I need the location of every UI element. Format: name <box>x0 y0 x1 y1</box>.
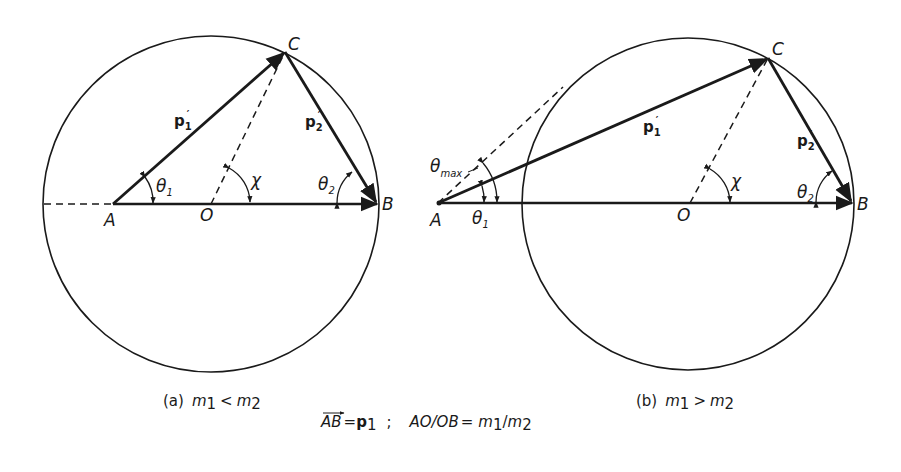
panel-b: A O B C p1′ p2′ θmax θ1 χ θ2 (b)m1>m2 <box>429 38 869 413</box>
theta-max-leader <box>468 168 478 172</box>
panel-a: A O B C p1′ p2′ θ1 χ θ2 (a)m1<m2 <box>43 34 394 413</box>
theta1-label: θ1 <box>156 176 173 198</box>
point-label-b: B <box>857 194 869 214</box>
caption-a: (a)m1<m2 <box>163 392 261 413</box>
point-label-b: B <box>382 194 394 214</box>
point-label-c: C <box>288 34 300 54</box>
point-label-a: A <box>429 210 442 230</box>
vector-p1-prime <box>438 59 767 203</box>
theta1-arc <box>482 186 484 202</box>
point-a-dot <box>437 201 442 206</box>
point-label-o: O <box>677 205 690 225</box>
theta2-label: θ2 <box>318 174 335 196</box>
p1-prime-label: p1′ <box>174 109 192 132</box>
p1-prime-label: p1′ <box>643 115 661 138</box>
chi-arc <box>710 169 730 202</box>
point-label-o: O <box>200 205 213 225</box>
elastic-collision-diagram: A O B C p1′ p2′ θ1 χ θ2 (a)m1<m2 <box>0 0 901 472</box>
dashed-radius-oc <box>211 54 284 204</box>
theta-max-label: θmax <box>430 156 462 179</box>
chi-arc <box>229 168 250 202</box>
footer-equation: AB=p1;AO/OB=m1/m2 <box>320 413 532 434</box>
theta2-label: θ2 <box>797 182 814 204</box>
footer-formula: AB=p1;AO/OB=m1/m2 <box>320 413 532 434</box>
theta1-label: θ1 <box>472 208 489 230</box>
theta1-arc <box>145 177 153 203</box>
caption-b: (b)m1>m2 <box>636 392 734 413</box>
point-label-c: C <box>772 39 784 59</box>
point-label-a: A <box>103 210 116 230</box>
theta2-arc <box>337 172 352 203</box>
chi-label: χ <box>730 171 742 191</box>
dashed-tangent-line <box>438 87 563 203</box>
p2-prime-label: p2′ <box>797 129 815 152</box>
vector-p2-prime <box>285 52 376 202</box>
chi-label: χ <box>250 170 262 190</box>
theta2-arc <box>816 171 832 202</box>
p2-prime-label: p2′ <box>305 110 323 133</box>
dashed-radius-oc <box>690 60 767 203</box>
